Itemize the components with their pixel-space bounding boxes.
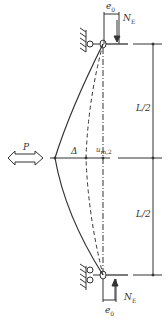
initial-imperfection xyxy=(86,44,103,275)
delta-label: Δ xyxy=(71,147,78,156)
top-roller xyxy=(87,41,93,47)
ne-bottom-label: NE xyxy=(124,293,136,304)
p-label: P xyxy=(23,143,29,152)
l-half-bottom-label: L/2 xyxy=(136,210,151,219)
column-deflection-diagram xyxy=(0,0,167,327)
ne-top-label: NE xyxy=(123,14,135,25)
l-half-top-label: L/2 xyxy=(136,104,151,113)
load-arrow xyxy=(8,151,43,165)
um-label: um,2 xyxy=(96,147,112,155)
e0-bottom-label: e0 xyxy=(105,306,114,317)
e0-top-label: e0 xyxy=(106,2,115,13)
